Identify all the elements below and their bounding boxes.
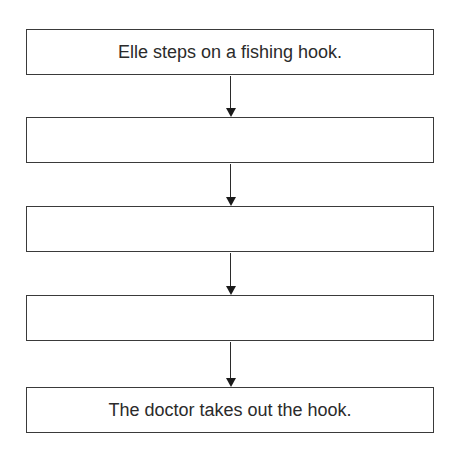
flow-box-5-text: The doctor takes out the hook. [108,400,351,421]
flow-box-1-text: Elle steps on a fishing hook. [118,42,342,63]
arrow-2-3 [230,164,231,197]
flow-box-3[interactable] [26,206,434,252]
flow-box-1: Elle steps on a fishing hook. [26,29,434,75]
arrow-4-5 [230,342,231,378]
arrowhead-1-2-icon [226,108,236,117]
arrow-3-4 [230,253,231,286]
arrowhead-2-3-icon [226,197,236,206]
arrow-1-2 [230,76,231,108]
flow-box-5: The doctor takes out the hook. [26,387,434,433]
arrowhead-4-5-icon [226,378,236,387]
flow-box-4[interactable] [26,295,434,341]
flow-box-2[interactable] [26,117,434,163]
arrowhead-3-4-icon [226,286,236,295]
